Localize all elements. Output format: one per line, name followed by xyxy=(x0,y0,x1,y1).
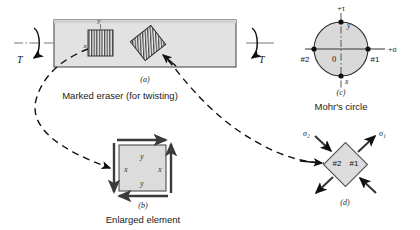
panel-b-face-top-label: y xyxy=(139,152,144,161)
panel-a-caption: Marked eraser (for twisting) xyxy=(62,90,178,101)
panel-c-label: (c) xyxy=(337,88,346,97)
torsion-mohrs-circle-figure: y x T T (a) Marked eraser (for twisting) xyxy=(0,0,420,230)
torque-left-label: T xyxy=(17,54,24,65)
torque-right-label: T xyxy=(259,54,266,65)
sigma1-arrow-lower-left xyxy=(316,177,333,193)
panel-b-face-left-label: x xyxy=(123,165,128,174)
torque-right: T xyxy=(252,28,266,65)
panel-a-label: (a) xyxy=(140,75,150,84)
panel-b-face-right-label: x xyxy=(157,165,162,174)
mohrs-point-y-label: y xyxy=(346,21,351,30)
mohrs-point-1 xyxy=(365,46,370,51)
marked-square-upright xyxy=(88,30,113,56)
mohrs-point-x-label: x xyxy=(344,77,349,86)
panel-b-group: y y x x (b) Enlarged element xyxy=(106,140,181,225)
mohrs-point-1-label: #1 xyxy=(371,55,380,64)
panel-b-caption: Enlarged element xyxy=(106,214,181,225)
sigma2-arrow-upper-left xyxy=(315,136,331,151)
sigma1-arrow-upper-right xyxy=(358,136,375,152)
eraser-body-highlight xyxy=(54,20,236,23)
panel-b-label: (b) xyxy=(138,201,148,210)
sigma1-label: σ₁ xyxy=(379,129,386,138)
mohrs-sigma-label: +σ xyxy=(388,45,398,54)
panel-d-face-1-label: #1 xyxy=(350,159,359,168)
mohrs-point-x xyxy=(338,73,343,78)
sigma2-label: σ₂ xyxy=(303,129,310,138)
panel-d-face-2-label: #2 xyxy=(333,159,342,168)
mohrs-origin-label: 0 xyxy=(332,54,336,64)
panel-c-group: +τ +σ y x 0 #2 #1 (c) Mohr's circle xyxy=(301,4,398,112)
torque-left: T xyxy=(17,28,39,65)
panel-b-face-bottom-label: y xyxy=(139,179,144,188)
panel-d-group: σ₁ σ₂ #2 #1 (d) xyxy=(303,129,386,207)
panel-d-label: (d) xyxy=(340,198,350,207)
sigma2-arrow-lower-right xyxy=(360,178,376,193)
mohrs-point-2 xyxy=(311,46,316,51)
panel-c-caption: Mohr's circle xyxy=(314,101,367,112)
connector-arrow-into-panel-d xyxy=(300,161,322,163)
mohrs-tau-label: +τ xyxy=(337,4,346,13)
panel-a-group: y x T T (a) Marked eraser (for twisting) xyxy=(14,17,274,101)
connector-a-to-d xyxy=(168,60,324,163)
mohrs-point-y xyxy=(338,19,343,24)
mohrs-point-2-label: #2 xyxy=(301,55,310,64)
